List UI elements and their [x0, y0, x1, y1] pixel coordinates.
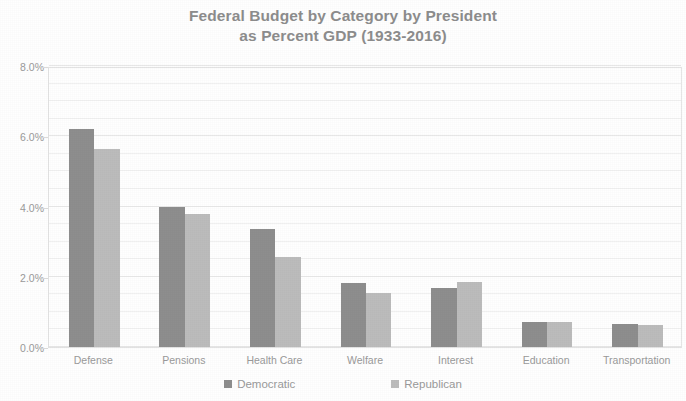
- bar-democratic-pensions: [159, 207, 184, 348]
- bar-group: [49, 68, 140, 347]
- y-axis-tick-label: 2.0%: [0, 273, 44, 284]
- chart-title-line-1: Federal Budget by Category by President: [189, 7, 497, 24]
- y-axis-tick-label: 8.0%: [0, 62, 44, 73]
- bar-republican-education: [547, 322, 572, 347]
- legend-swatch-icon: [391, 380, 399, 388]
- bar-democratic-welfare: [341, 283, 366, 347]
- bar-democratic-transportation: [612, 324, 637, 347]
- bar-pair: [250, 68, 301, 347]
- gridline-major: [49, 65, 681, 66]
- bar-republican-defense: [94, 149, 119, 347]
- y-axis-tick-label: 4.0%: [0, 203, 44, 214]
- bar-pair: [612, 68, 663, 347]
- x-axis-tick-label: Welfare: [320, 354, 411, 366]
- bar-democratic-health-care: [250, 229, 275, 347]
- x-axis-tick-label: Transportation: [591, 354, 682, 366]
- bar-group: [502, 68, 593, 347]
- bars-layer: [49, 68, 681, 347]
- x-axis-tick-label: Interest: [410, 354, 501, 366]
- bar-democratic-interest: [431, 288, 456, 347]
- bar-group: [140, 68, 231, 347]
- bar-republican-interest: [457, 282, 482, 347]
- bar-democratic-defense: [69, 129, 94, 347]
- bar-group: [592, 68, 683, 347]
- bar-group: [411, 68, 502, 347]
- bar-group: [230, 68, 321, 347]
- bar-pair: [522, 68, 573, 347]
- bar-pair: [159, 68, 210, 347]
- legend-item-democratic[interactable]: Democratic: [224, 375, 295, 393]
- bar-republican-transportation: [638, 325, 663, 347]
- legend-label: Republican: [404, 378, 462, 391]
- chart-title: Federal Budget by Category by President …: [0, 6, 686, 46]
- x-axis-tick-label: Health Care: [229, 354, 320, 366]
- bar-democratic-education: [522, 322, 547, 347]
- chart-legend: DemocraticRepublican: [0, 374, 686, 394]
- legend-item-republican[interactable]: Republican: [391, 375, 462, 393]
- y-axis-tick-label: 6.0%: [0, 132, 44, 143]
- chart-title-line-2: as Percent GDP (1933-2016): [0, 26, 686, 46]
- bar-republican-health-care: [275, 257, 300, 347]
- bar-pair: [341, 68, 392, 347]
- bar-republican-welfare: [366, 293, 391, 347]
- legend-swatch-icon: [224, 380, 232, 388]
- bar-pair: [431, 68, 482, 347]
- plot-area: [48, 67, 682, 348]
- legend-label: Democratic: [237, 378, 295, 391]
- bar-pair: [69, 68, 120, 347]
- x-axis-tick-label: Education: [501, 354, 592, 366]
- bar-republican-pensions: [185, 214, 210, 347]
- y-axis-tick-mark: [42, 348, 48, 349]
- y-axis-tick-label: 0.0%: [0, 343, 44, 354]
- x-axis-tick-label: Defense: [48, 354, 139, 366]
- x-axis-tick-label: Pensions: [139, 354, 230, 366]
- bar-group: [321, 68, 412, 347]
- bar-chart: Federal Budget by Category by President …: [0, 0, 686, 401]
